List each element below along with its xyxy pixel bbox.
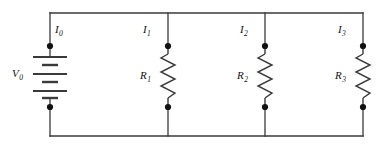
node-dot-source-top — [47, 43, 53, 49]
resistor-1-symbol — [161, 46, 175, 107]
node-dot-r3-top — [360, 43, 366, 49]
current-label-i3: I3 — [338, 24, 345, 35]
current-label-i2-sub: 2 — [244, 29, 248, 38]
node-dot-r1-top — [165, 43, 171, 49]
source-label-v0-main: V — [12, 67, 19, 79]
resistor-label-r1: R1 — [140, 70, 150, 81]
node-dot-r3-bottom — [360, 104, 366, 110]
node-dot-r2-top — [262, 43, 268, 49]
battery-symbol — [33, 46, 67, 107]
circuit-figure: I0 V0 I1 R1 I2 R2 I3 R3 — [0, 0, 388, 148]
resistor-label-r2: R2 — [237, 70, 247, 81]
resistor-label-r3-main: R — [335, 69, 342, 81]
node-dots — [47, 43, 366, 110]
current-label-i1-sub: 1 — [147, 29, 151, 38]
node-dot-r2-bottom — [262, 104, 268, 110]
source-label-v0-sub: 0 — [19, 73, 23, 82]
resistor-label-r3: R3 — [335, 70, 345, 81]
current-label-i0: I0 — [55, 24, 62, 35]
current-label-i1: I1 — [143, 24, 150, 35]
source-label-v0: V0 — [12, 68, 22, 79]
resistor-2-zigzag — [258, 54, 272, 98]
resistor-3-symbol — [356, 46, 370, 107]
resistor-label-r1-main: R — [140, 69, 147, 81]
resistor-1-zigzag — [161, 54, 175, 98]
current-label-i0-sub: 0 — [59, 29, 63, 38]
resistor-label-r2-sub: 2 — [244, 75, 248, 84]
resistor-label-r1-sub: 1 — [147, 75, 151, 84]
resistor-label-r2-main: R — [237, 69, 244, 81]
node-dot-source-bottom — [47, 104, 53, 110]
wire-group — [50, 13, 363, 136]
current-label-i3-sub: 3 — [342, 29, 346, 38]
resistor-3-zigzag — [356, 54, 370, 98]
resistor-label-r3-sub: 3 — [342, 75, 346, 84]
node-dot-r1-bottom — [165, 104, 171, 110]
resistor-2-symbol — [258, 46, 272, 107]
current-label-i2: I2 — [240, 24, 247, 35]
